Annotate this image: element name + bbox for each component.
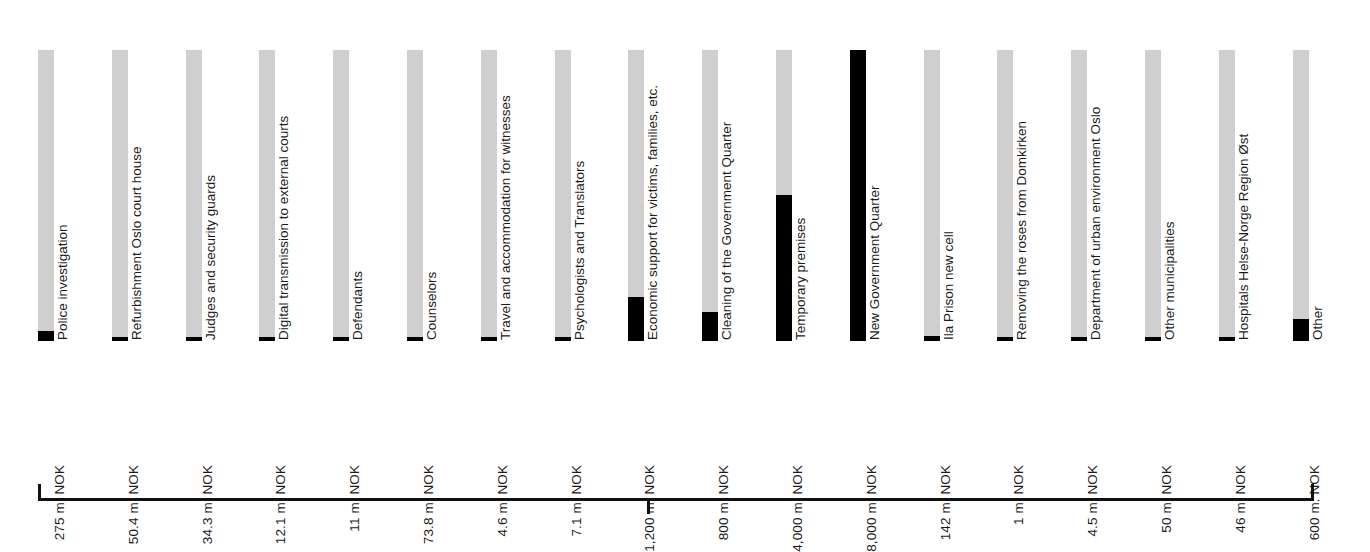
bar-fill: [112, 337, 128, 341]
bar-category-label: Police investigation: [56, 40, 76, 340]
bar-track: [1293, 50, 1309, 341]
bar-value-label: 50 m. NOK: [1145, 349, 1161, 469]
bar-category-label: Temporary premises: [794, 40, 814, 340]
bar-value-label: 800 m. NOK: [702, 349, 718, 469]
bar-group[interactable]: 142 m. NOKIla Prison new cell: [906, 0, 980, 518]
bar-category-text: Refurbishment Oslo court house: [129, 146, 144, 340]
bar-category-label: New Government Quarter: [868, 40, 888, 340]
bar-category-text: Removing the roses from Domkirken: [1014, 121, 1029, 340]
bar-value-text: 4.6 m. NOK: [495, 465, 510, 537]
bar-category-label: Refurbishment Oslo court house: [130, 40, 150, 340]
bar-value-label: 12.1 m. NOK: [259, 349, 275, 469]
bar-fill: [259, 337, 275, 341]
bar-value-text: 1 m. NOK: [1011, 465, 1026, 525]
bar-category-label: Travel and accommodation for witnesses: [499, 40, 519, 340]
bar-track: [702, 50, 718, 341]
bar-track: [924, 50, 940, 341]
bar-category-text: Judges and security guards: [203, 175, 218, 340]
bar-track: [997, 50, 1013, 341]
bar-fill: [186, 337, 202, 341]
bar-value-text: 7.1 m. NOK: [569, 465, 584, 537]
bar-fill: [38, 331, 54, 341]
bar-category-text: Hospitals Helse-Norge Region Øst: [1236, 134, 1251, 340]
bar-fill: [1293, 319, 1309, 341]
bar-category-label: Digital transmission to external courts: [277, 40, 297, 340]
bar-value-label: 73.8 m. NOK: [407, 349, 423, 469]
bar-category-text: Economic support for victims, families, …: [645, 85, 660, 340]
bar-group[interactable]: 7.1 m. NOKPsychologists and Translators: [537, 0, 611, 518]
bar-value-text: 50.4 m. NOK: [126, 465, 141, 544]
bar-group[interactable]: 1 m. NOKRemoving the roses from Domkirke…: [979, 0, 1053, 518]
bar-fill: [924, 336, 940, 341]
bar-value-text: 34.3 m. NOK: [200, 465, 215, 544]
bar-category-text: Counselors: [424, 272, 439, 340]
bar-category-text: Defendants: [350, 271, 365, 340]
bar-fill: [1071, 337, 1087, 341]
bar-track: [1219, 50, 1235, 341]
bar-track: [112, 50, 128, 341]
bar-value-text: 46 m. NOK: [1233, 465, 1248, 533]
bar-value-label: 7.1 m. NOK: [555, 349, 571, 469]
bar-fill: [1145, 337, 1161, 341]
bar-group[interactable]: 8,000 m. NOKNew Government Quarter: [832, 0, 906, 518]
bar-group[interactable]: 50.4 m. NOKRefurbishment Oslo court hous…: [94, 0, 168, 518]
bar-category-label: Other: [1311, 40, 1331, 340]
bar-fill: [1219, 337, 1235, 341]
bar-value-label: 4.6 m. NOK: [481, 349, 497, 469]
bar-category-text: Psychologists and Translators: [572, 161, 587, 340]
bar-fill: [850, 50, 866, 341]
bar-category-label: Psychologists and Translators: [573, 40, 593, 340]
bar-track: [481, 50, 497, 341]
bar-group[interactable]: 34.3 m. NOKJudges and security guards: [168, 0, 242, 518]
bar-category-text: Other municipalities: [1162, 221, 1177, 340]
bar-category-text: Police investigation: [55, 224, 70, 340]
bar-value-label: 600 m. NOK: [1293, 349, 1309, 469]
bar-category-label: Counselors: [425, 40, 445, 340]
bar-value-text: 800 m. NOK: [716, 465, 731, 540]
bar-group[interactable]: 46 m. NOKHospitals Helse-Norge Region Øs…: [1201, 0, 1275, 518]
bar-group[interactable]: 275 m. NOKPolice investigation: [20, 0, 94, 518]
bar-value-label: 4,000 m. NOK: [776, 349, 792, 469]
bar-fill: [702, 312, 718, 341]
bar-value-label: 275 m. NOK: [38, 349, 54, 469]
bar-category-label: Hospitals Helse-Norge Region Øst: [1237, 40, 1257, 340]
bar-track: [186, 50, 202, 341]
bar-category-label: Judges and security guards: [204, 40, 224, 340]
bar-group[interactable]: 4.6 m. NOKTravel and accommodation for w…: [463, 0, 537, 518]
bar-value-label: 1 m. NOK: [997, 349, 1013, 469]
bar-value-text: 600 m. NOK: [1307, 465, 1322, 540]
bar-fill: [628, 297, 644, 341]
bar-fill: [407, 337, 423, 341]
bar-value-text: 50 m. NOK: [1159, 465, 1174, 533]
bar-group[interactable]: 11 m. NOKDefendants: [315, 0, 389, 518]
bar-group[interactable]: 12.1 m. NOKDigital transmission to exter…: [241, 0, 315, 518]
bar-fill: [997, 337, 1013, 341]
bar-group[interactable]: 73.8 m. NOKCounselors: [389, 0, 463, 518]
bar-track: [555, 50, 571, 341]
bar-category-text: Temporary premises: [793, 218, 808, 340]
bar-value-text: 275 m. NOK: [52, 465, 67, 540]
bar-fill: [776, 195, 792, 341]
bar-group[interactable]: 800 m. NOKCleaning of the Government Qua…: [684, 0, 758, 518]
bar-value-label: 1,200 m. NOK: [628, 349, 644, 469]
bar-category-text: Cleaning of the Government Quarter: [719, 122, 734, 340]
bar-group[interactable]: 600 m. NOKOther: [1275, 0, 1349, 518]
bar-group[interactable]: 1,200 m. NOKEconomic support for victims…: [610, 0, 684, 518]
bar-value-text: 11 m. NOK: [347, 465, 362, 532]
bar-value-label: 142 m. NOK: [924, 349, 940, 469]
bar-value-text: 73.8 m. NOK: [421, 465, 436, 544]
bar-category-text: New Government Quarter: [867, 185, 882, 340]
bar-value-label: 34.3 m. NOK: [186, 349, 202, 469]
bar-value-label: 11 m. NOK: [333, 349, 349, 469]
bar-group[interactable]: 4.5 m. NOKDepartment of urban environmen…: [1053, 0, 1127, 518]
bar-value-text: 4.5 m. NOK: [1085, 465, 1100, 537]
bar-category-label: Defendants: [351, 40, 371, 340]
bar-category-text: Ila Prison new cell: [941, 231, 956, 340]
bar-category-label: Other municipalities: [1163, 40, 1183, 340]
bar-category-text: Travel and accommodation for witnesses: [498, 95, 513, 340]
bar-value-label: 50.4 m. NOK: [112, 349, 128, 469]
bar-group[interactable]: 50 m. NOKOther municipalities: [1127, 0, 1201, 518]
bar-group[interactable]: 4,000 m. NOKTemporary premises: [758, 0, 832, 518]
bar-fill: [555, 337, 571, 341]
